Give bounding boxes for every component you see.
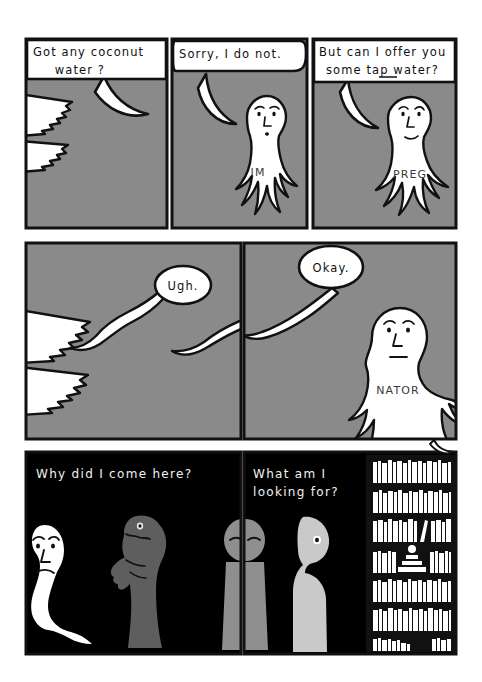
- shelf-row-2: [371, 488, 452, 514]
- panel-7-caption-line-1: What am I: [253, 467, 326, 481]
- panel-4-speech-text: Ugh.: [167, 279, 198, 293]
- shelf-row-1: [371, 459, 452, 485]
- panel-4[interactable]: Ugh.: [20, 243, 244, 439]
- panel-4-speech-bubble: Ugh.: [155, 266, 211, 304]
- panel-1[interactable]: Got any coconut water ?: [20, 39, 167, 228]
- panel-3-body-text: PREG: [393, 168, 427, 181]
- shelf-row-5: [371, 577, 452, 603]
- panel-2-body-text: IM: [251, 166, 266, 179]
- top-row: Got any coconut water ?: [20, 39, 456, 228]
- panel-3-speech-line-1: But can I offer you: [319, 45, 446, 59]
- shelf-row-6: [371, 606, 452, 632]
- panel-3-speech-bubble: But can I offer you some tap water?: [314, 40, 455, 82]
- bottom-row: Why did I come here?: [26, 440, 456, 654]
- comic-strip: Got any coconut water ?: [0, 0, 482, 682]
- panel-5-speech-text: Okay.: [313, 261, 350, 275]
- panel-2-speech-line-1: Sorry, I do not.: [179, 47, 282, 61]
- panel-2-speech-bubble: Sorry, I do not.: [173, 41, 306, 71]
- panel-3-speech-line-2: some tap water?: [326, 63, 439, 77]
- panel-1-speech-line-1: Got any coconut: [33, 45, 144, 59]
- panel-1-speech-bubble: Got any coconut water ?: [27, 40, 166, 79]
- panel-7-caption-line-2: looking for?: [253, 485, 339, 499]
- middle-row: Ugh.: [20, 243, 466, 448]
- shelf-row-4: [371, 545, 452, 574]
- comic-canvas: Got any coconut water ?: [0, 0, 482, 682]
- panel-5[interactable]: NATOR Okay.: [242, 243, 466, 448]
- shelf-row-3: [371, 517, 452, 543]
- panel-6[interactable]: Why did I come here?: [26, 452, 264, 654]
- panel-5-body-text: NATOR: [376, 384, 419, 397]
- panel-6-caption-line-1: Why did I come here?: [36, 467, 192, 481]
- panel-5-speech-bubble: Okay.: [299, 246, 363, 288]
- shelf-row-7: [371, 635, 452, 652]
- panel-7[interactable]: What am I looking for?: [226, 452, 456, 654]
- panel-3[interactable]: PREG But can I offer you some tap water?: [313, 39, 456, 228]
- bookshelf: [366, 455, 456, 652]
- panel-1-speech-line-2: water ?: [55, 63, 105, 77]
- panel-2[interactable]: IM Sorry, I do not.: [172, 39, 307, 228]
